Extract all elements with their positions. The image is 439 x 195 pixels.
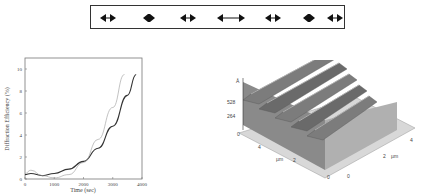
y-tick-label: 4 <box>20 133 23 138</box>
y-tick-label: 10 <box>17 67 23 72</box>
x-axis-unit: µm <box>276 156 283 162</box>
diffraction-efficiency-chart: 010002000300040000246810 Time (sec) Diff… <box>0 55 160 195</box>
z-axis-label: Å <box>236 78 240 84</box>
z-tick-528: 528 <box>227 99 236 105</box>
x-tick-label: 3000 <box>108 182 119 187</box>
x-tick-label: 0 <box>24 182 27 187</box>
z-tick-264: 264 <box>227 113 236 119</box>
double-arrow-short-icon <box>100 14 116 22</box>
x-axis-label: Time (sec) <box>70 187 96 194</box>
x-tick-label: 4000 <box>137 182 148 187</box>
y-tick-label: 0 <box>20 177 23 182</box>
double-arrow-short-icon <box>265 14 281 22</box>
y-tick-label: 6 <box>20 111 23 116</box>
arrow-pattern <box>91 6 346 30</box>
afm-surface-plot: Å 528 264 0 4 µm 2 0 0 2 µm 4 <box>225 60 435 195</box>
y-tick-label: 2 <box>20 155 23 160</box>
series-line-thin <box>25 75 124 178</box>
y-tick-4: 4 <box>410 137 413 143</box>
z-tick-0: 0 <box>237 131 240 137</box>
x-tick-label: 1000 <box>49 182 60 187</box>
x-tick-4: 4 <box>258 144 261 150</box>
diamond-icon <box>143 14 155 22</box>
y-tick-2: 2 <box>383 153 386 159</box>
series-line-solid <box>25 75 136 176</box>
y-axis-label: Diffraction Efficiency (%) <box>4 87 11 150</box>
y-axis-unit: µm <box>391 153 398 159</box>
x-tick-0: 0 <box>327 174 330 180</box>
double-arrow-short-icon <box>327 14 343 22</box>
diamond-icon <box>303 14 315 22</box>
x-tick-2: 2 <box>293 157 296 163</box>
double-arrow-short-icon <box>180 14 196 22</box>
y-tick-label: 8 <box>20 89 23 94</box>
y-tick-0: 0 <box>347 173 350 179</box>
double-arrow-long-icon <box>217 14 245 22</box>
arrow-pattern-box <box>90 5 345 29</box>
